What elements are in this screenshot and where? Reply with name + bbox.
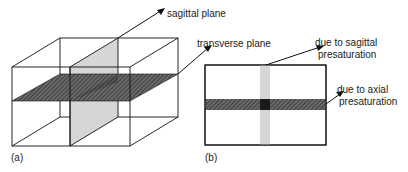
transverse-pointer — [178, 48, 208, 74]
sagittal-presat-pointer — [266, 47, 320, 65]
axial-presat-label-2: presaturation — [339, 96, 397, 107]
slice-figure — [205, 65, 326, 145]
axial-presat-label-1: due to axial — [337, 84, 388, 95]
sagittal-presat-label-2: presaturation — [318, 49, 376, 60]
cube-figure — [12, 38, 178, 146]
panel-label-b: (b) — [205, 152, 217, 163]
sagittal-pointer — [118, 10, 162, 38]
transverse-plane-label: transverse plane — [197, 38, 271, 49]
panel-label-a: (a) — [11, 152, 23, 163]
sagittal-presat-label-1: due to sagittal — [315, 37, 377, 48]
sagittal-plane-label: sagittal plane — [167, 8, 226, 19]
band-intersection — [260, 99, 270, 110]
axial-presat-pointer — [326, 94, 340, 104]
presaturation-diagram: sagittal plane transverse plane (a) due … — [0, 0, 408, 172]
